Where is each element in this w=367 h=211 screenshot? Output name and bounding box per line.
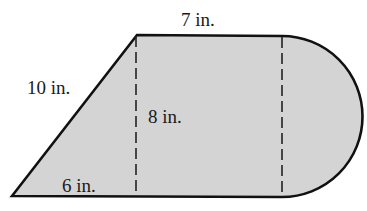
composite-shape-diagram: 7 in. 10 in. 8 in. 6 in. — [0, 0, 367, 211]
label-top-width: 7 in. — [181, 9, 215, 30]
label-slant-side: 10 in. — [27, 77, 70, 98]
label-height: 8 in. — [148, 106, 182, 127]
label-base: 6 in. — [62, 175, 96, 196]
composite-shape-outline — [12, 35, 363, 197]
